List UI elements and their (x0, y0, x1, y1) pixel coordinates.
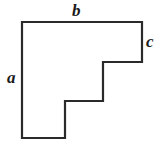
staircase-polygon (22, 22, 142, 138)
label-b: b (72, 2, 81, 19)
staircase-shape (0, 0, 165, 158)
label-a: a (7, 69, 16, 86)
staircase-diagram: a b c (0, 0, 165, 158)
label-c: c (146, 33, 154, 50)
